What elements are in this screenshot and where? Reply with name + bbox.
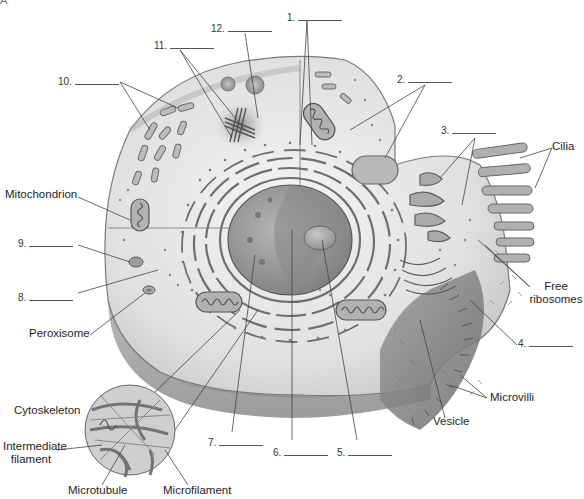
mitochondrion-lower-left [196, 292, 242, 312]
label-free-ribosomes: Free ribosomes [528, 280, 584, 306]
blank-label-5: 5. [337, 447, 392, 459]
centrosome [214, 101, 266, 149]
secretory-vesicle [352, 156, 398, 184]
label-microtubule: Microtubule [68, 484, 127, 497]
blank-label-10: 10. [58, 76, 119, 88]
blank-label-6: 6. [273, 447, 328, 459]
cell-diagram: A 1. 2. 3. 4. 5. 6. 7. 8. 9. 10. 11. 12.… [0, 0, 584, 499]
answer-blank-7[interactable] [219, 437, 263, 446]
label-microfilament: Microfilament [163, 484, 231, 497]
cell-illustration [0, 0, 584, 499]
label9-organelle [129, 257, 143, 267]
blank-label-3: 3. [441, 125, 496, 137]
nucleolus [304, 226, 336, 250]
blank-label-7: 7. [208, 437, 263, 449]
label-peroxisome: Peroxisome [29, 327, 90, 340]
blank-label-12: 12. [211, 23, 272, 35]
blank-label-8: 8. [18, 292, 73, 304]
label-cilia: Cilia [552, 140, 574, 153]
mitochondrion-lower-right [336, 300, 386, 320]
answer-blank-11[interactable] [170, 40, 214, 49]
blank-label-9: 9. [18, 238, 73, 250]
answer-blank-3[interactable] [452, 125, 496, 134]
blank-label-1: 1. [287, 12, 342, 24]
label-microvilli: Microvilli [490, 391, 534, 404]
answer-blank-5[interactable] [348, 447, 392, 456]
corner-letter: A [0, 0, 7, 7]
answer-blank-10[interactable] [75, 76, 119, 85]
label-intermediate-filament: Intermediate filament [3, 440, 59, 466]
blank-label-4: 4. [518, 338, 573, 350]
label-vesicle: Vesicle [433, 415, 469, 428]
label-mitochondrion: Mitochondrion [5, 188, 77, 201]
answer-blank-2[interactable] [408, 74, 452, 83]
answer-blank-12[interactable] [228, 23, 272, 32]
label-cytoskeleton: Cytoskeleton [14, 404, 80, 417]
mitochondrion-left [131, 199, 149, 231]
cytoskeleton-inset [85, 385, 175, 477]
blank-label-2: 2. [397, 74, 452, 86]
answer-blank-1[interactable] [298, 12, 342, 21]
answer-blank-8[interactable] [29, 292, 73, 301]
blank-label-11: 11. [154, 40, 214, 52]
answer-blank-4[interactable] [529, 338, 573, 347]
answer-blank-6[interactable] [284, 447, 328, 456]
answer-blank-9[interactable] [29, 238, 73, 247]
